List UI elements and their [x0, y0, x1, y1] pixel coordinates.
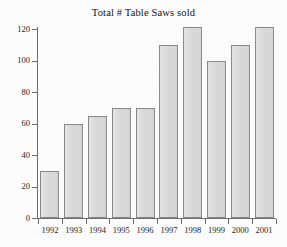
x-axis-tick-label: 1995 — [109, 226, 133, 235]
x-axis-tick — [86, 219, 87, 224]
bar-chart: Total # Table Saws sold 020406080100120 … — [0, 0, 287, 247]
bar-1994 — [88, 116, 107, 218]
plot-area — [38, 25, 276, 218]
x-axis-tick-label: 1996 — [133, 226, 157, 235]
y-axis-tick-label-wrap: 80 — [0, 88, 30, 97]
y-axis-tick-label-wrap: 20 — [0, 182, 30, 191]
bar-fill — [232, 46, 249, 217]
y-axis-tick-label: 120 — [2, 25, 30, 34]
x-axis-tick — [228, 219, 229, 224]
bar-fill — [160, 46, 177, 217]
y-axis-tick-label-wrap: 60 — [0, 119, 30, 128]
bar-1995 — [112, 108, 131, 218]
x-axis-tick — [205, 219, 206, 224]
x-axis-tick-label: 1997 — [157, 226, 181, 235]
y-axis-tick-label: 80 — [2, 88, 30, 97]
x-axis-tick-label: 2001 — [252, 226, 276, 235]
x-axis-tick-label: 1999 — [205, 226, 229, 235]
bar-1999 — [207, 61, 226, 219]
bar-fill — [89, 117, 106, 217]
bar-fill — [208, 62, 225, 218]
y-axis-tick-label: 40 — [2, 151, 30, 160]
bar-fill — [184, 28, 201, 217]
x-axis-tick — [133, 219, 134, 224]
x-axis-tick-label: 1992 — [38, 226, 62, 235]
x-axis-tick-label: 1993 — [62, 226, 86, 235]
x-axis-tick — [252, 219, 253, 224]
x-axis-tick — [62, 219, 63, 224]
x-axis-tick — [157, 219, 158, 224]
bar-2000 — [231, 45, 250, 218]
bar-1993 — [64, 124, 83, 219]
bar-fill — [113, 109, 130, 217]
x-axis-tick-label: 1994 — [86, 226, 110, 235]
bar-fill — [65, 125, 82, 218]
y-axis-tick-label-wrap: 120 — [0, 25, 30, 34]
y-axis-tick-label-wrap: 100 — [0, 56, 30, 65]
y-axis-tick-label-wrap: 40 — [0, 151, 30, 160]
x-axis-tick-label: 1998 — [181, 226, 205, 235]
bar-2001 — [255, 27, 274, 218]
bar-fill — [256, 28, 273, 217]
bar-1992 — [40, 171, 59, 218]
bar-1996 — [136, 108, 155, 218]
x-axis-tick-label: 2000 — [228, 226, 252, 235]
chart-title: Total # Table Saws sold — [0, 7, 287, 18]
x-axis-tick — [276, 219, 277, 224]
y-axis-tick-label: 20 — [2, 182, 30, 191]
y-axis-tick-label: 60 — [2, 119, 30, 128]
bar-fill — [41, 172, 58, 217]
y-axis-tick-label-wrap: 0 — [0, 214, 30, 223]
bar-1998 — [183, 27, 202, 218]
bar-fill — [137, 109, 154, 217]
x-axis-tick — [109, 219, 110, 224]
y-axis-tick-label: 0 — [2, 214, 30, 223]
bar-1997 — [159, 45, 178, 218]
y-axis-tick-label: 100 — [2, 56, 30, 65]
x-axis-tick — [38, 219, 39, 224]
x-axis-tick — [181, 219, 182, 224]
